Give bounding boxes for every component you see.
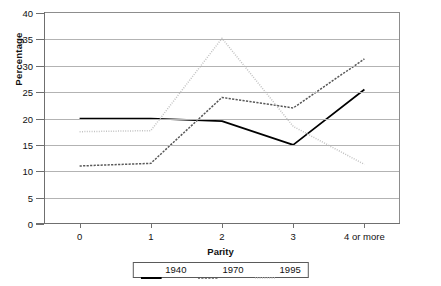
y-axis-tick [36, 119, 44, 120]
y-axis-tick [36, 92, 44, 93]
y-axis-tick-label: 15 [22, 139, 33, 150]
x-axis-tick-label: 1 [148, 231, 153, 242]
y-axis-tick-label: 10 [22, 166, 33, 177]
x-axis-tick-label: 0 [77, 231, 82, 242]
y-axis-tick [36, 39, 44, 40]
x-axis-line: 01234 or more [36, 223, 400, 224]
x-axis-tick-label: 4 or more [344, 231, 385, 242]
legend-swatch-1940 [140, 267, 161, 273]
legend-label-1940: 1940 [165, 265, 186, 275]
gridline [44, 145, 399, 146]
plot-area: 0510152025303540 [44, 12, 400, 223]
legend-swatch-1995 [255, 267, 276, 273]
x-axis-tick [222, 223, 223, 228]
y-axis-tick-label: 30 [22, 60, 33, 71]
gridline [44, 119, 399, 120]
x-axis-tick-label: 2 [219, 231, 224, 242]
gridline [44, 198, 399, 199]
y-axis-tick-label: 0 [28, 219, 33, 230]
y-axis-tick-label: 25 [22, 87, 33, 98]
y-axis-tick-label: 20 [22, 113, 33, 124]
legend-swatch-1970 [197, 267, 218, 273]
x-axis-tick [80, 223, 81, 228]
legend-item-1970[interactable]: 1970 [197, 265, 243, 275]
legend-label-1970: 1970 [222, 265, 243, 275]
legend-item-1995[interactable]: 1995 [255, 265, 301, 275]
gridline [44, 39, 399, 40]
series-line-1970 [80, 59, 365, 166]
chart-legend: 194019701995 [132, 262, 308, 278]
y-axis-tick [36, 171, 44, 172]
x-axis-tick [364, 223, 365, 228]
y-axis-tick [36, 224, 44, 225]
gridline [44, 92, 399, 93]
y-axis-tick-label: 5 [28, 192, 33, 203]
x-axis-tick-label: 3 [291, 231, 296, 242]
x-axis-tick [151, 223, 152, 228]
legend-item-1940[interactable]: 1940 [140, 265, 186, 275]
legend-label-1995: 1995 [280, 265, 301, 275]
y-axis-tick-label: 40 [22, 8, 33, 19]
y-axis-line [44, 12, 45, 224]
y-axis-tick [36, 66, 44, 67]
x-axis-title: Parity [0, 246, 441, 257]
y-axis-tick-label: 35 [22, 34, 33, 45]
gridline [44, 171, 399, 172]
gridline [44, 66, 399, 67]
x-axis-tick [293, 223, 294, 228]
y-axis-tick [36, 145, 44, 146]
line-chart: Percentage 0510152025303540 01234 or mor… [0, 0, 441, 286]
y-axis-tick [36, 13, 44, 14]
y-axis-tick [36, 198, 44, 199]
